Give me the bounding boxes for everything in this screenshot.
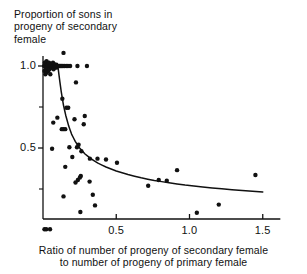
- data-point: [95, 156, 99, 160]
- x-tick-label: 1.5: [243, 224, 283, 236]
- data-point: [44, 227, 48, 231]
- data-point: [70, 155, 74, 159]
- data-point: [55, 115, 59, 119]
- y-tick-label: 0.5: [4, 141, 36, 153]
- y-tick-label: 1.0: [4, 59, 36, 71]
- data-point: [87, 179, 91, 183]
- x-axis-title: Ratio of number of progeny of secondary …: [0, 244, 307, 269]
- data-point: [88, 156, 92, 160]
- scatter-plot-figure: Proportion of sons in progeny of seconda…: [0, 0, 307, 274]
- data-point: [73, 180, 77, 184]
- data-point: [50, 147, 54, 151]
- data-point: [78, 210, 82, 214]
- data-point: [175, 168, 179, 172]
- data-point: [51, 120, 55, 124]
- data-point: [91, 193, 95, 197]
- data-point: [217, 202, 221, 206]
- data-point: [63, 127, 67, 131]
- data-point: [165, 179, 169, 183]
- data-point: [76, 143, 80, 147]
- data-point: [68, 64, 72, 68]
- data-point: [48, 227, 52, 231]
- data-point: [115, 161, 119, 165]
- data-point: [83, 114, 87, 118]
- data-point: [93, 203, 97, 207]
- data-point: [48, 72, 52, 76]
- data-point: [75, 64, 79, 68]
- data-point: [195, 211, 199, 215]
- data-point: [60, 97, 64, 101]
- data-point: [79, 174, 83, 178]
- data-point: [82, 122, 86, 126]
- data-point: [253, 173, 257, 177]
- data-point: [74, 80, 78, 84]
- data-point: [66, 106, 70, 110]
- data-point: [157, 178, 161, 182]
- data-point: [146, 184, 150, 188]
- data-point: [67, 145, 71, 149]
- data-point: [63, 165, 67, 169]
- data-point: [61, 51, 65, 55]
- data-point: [72, 117, 76, 121]
- fitted-curve: [57, 64, 262, 192]
- data-point: [85, 64, 89, 68]
- x-tick-label: 0.5: [96, 224, 136, 236]
- data-point: [104, 157, 108, 161]
- x-tick-label: 1.0: [170, 224, 210, 236]
- data-point: [61, 194, 65, 198]
- data-point: [79, 149, 83, 153]
